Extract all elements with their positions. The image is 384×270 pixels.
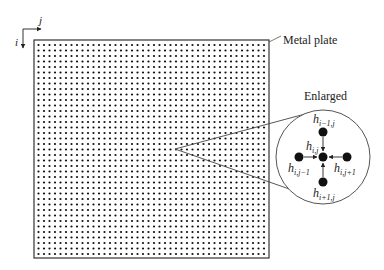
grid-dot — [164, 165, 166, 167]
grid-dot — [54, 132, 56, 134]
grid-dot — [136, 121, 138, 123]
grid-dot — [202, 231, 204, 233]
grid-dot — [142, 77, 144, 79]
grid-dot — [208, 60, 210, 62]
grid-dot — [125, 137, 127, 139]
grid-dot — [76, 247, 78, 249]
grid-dot — [246, 82, 248, 84]
grid-dot — [131, 231, 133, 233]
grid-dot — [103, 203, 105, 205]
grid-dot — [246, 88, 248, 90]
grid-dot — [48, 88, 50, 90]
grid-dot — [131, 121, 133, 123]
grid-dot — [92, 181, 94, 183]
grid-dot — [246, 143, 248, 145]
grid-dot — [70, 154, 72, 156]
grid-dot — [241, 132, 243, 134]
grid-dot — [158, 77, 160, 79]
grid-dot — [87, 115, 89, 117]
grid-dot — [114, 176, 116, 178]
grid-dot — [87, 121, 89, 123]
grid-dot — [263, 247, 265, 249]
grid-dot — [59, 187, 61, 189]
grid-dot — [246, 137, 248, 139]
grid-dot — [257, 71, 259, 73]
grid-dot — [98, 214, 100, 216]
grid-dot — [70, 93, 72, 95]
grid-dot — [81, 82, 83, 84]
grid-dot — [191, 253, 193, 255]
grid-dot — [120, 143, 122, 145]
grid-dot — [246, 132, 248, 134]
grid-dot — [76, 143, 78, 145]
grid-dot — [263, 137, 265, 139]
grid-dot — [235, 247, 237, 249]
grid-dot — [191, 49, 193, 51]
grid-dot — [114, 55, 116, 57]
grid-dot — [175, 225, 177, 227]
grid-dot — [241, 148, 243, 150]
grid-dot — [202, 132, 204, 134]
grid-dot — [65, 60, 67, 62]
grid-dot — [59, 181, 61, 183]
grid-dot — [263, 82, 265, 84]
grid-dot — [197, 66, 199, 68]
grid-dot — [142, 55, 144, 57]
grid-dot — [169, 214, 171, 216]
grid-dot — [153, 71, 155, 73]
grid-dot — [252, 148, 254, 150]
grid-dot — [103, 253, 105, 255]
diagram-canvas: j i Metal plate Enlarged hi−1,j hi,j hi,… — [0, 0, 384, 270]
grid-dot — [43, 110, 45, 112]
grid-dot — [103, 225, 105, 227]
grid-dot — [125, 165, 127, 167]
grid-dot — [120, 209, 122, 211]
grid-dot — [109, 170, 111, 172]
grid-dot — [186, 49, 188, 51]
grid-dot — [230, 66, 232, 68]
grid-dot — [257, 225, 259, 227]
grid-dot — [81, 104, 83, 106]
grid-dot — [263, 225, 265, 227]
grid-dot — [241, 187, 243, 189]
grid-dot — [103, 220, 105, 222]
grid-dot — [103, 71, 105, 73]
grid-dot — [191, 82, 193, 84]
grid-dot — [92, 71, 94, 73]
grid-dot — [153, 236, 155, 238]
grid-dot — [153, 126, 155, 128]
grid-dot — [158, 225, 160, 227]
grid-dot — [191, 60, 193, 62]
grid-dot — [191, 126, 193, 128]
grid-dot — [131, 247, 133, 249]
grid-dot — [136, 192, 138, 194]
grid-dot — [197, 225, 199, 227]
grid-dot — [109, 253, 111, 255]
grid-dot — [98, 192, 100, 194]
grid-dot — [109, 187, 111, 189]
grid-dot — [43, 231, 45, 233]
grid-dot — [197, 115, 199, 117]
grid-dot — [219, 231, 221, 233]
grid-dot — [202, 110, 204, 112]
grid-dot — [246, 60, 248, 62]
grid-dot — [114, 71, 116, 73]
grid-dot — [87, 181, 89, 183]
grid-dot — [197, 121, 199, 123]
grid-dot — [147, 115, 149, 117]
grid-dot — [43, 55, 45, 57]
grid-dot — [208, 99, 210, 101]
grid-dot — [213, 44, 215, 46]
grid-dot — [208, 55, 210, 57]
grid-dot — [202, 115, 204, 117]
grid-dot — [70, 159, 72, 161]
grid-dot — [219, 209, 221, 211]
grid-dot — [142, 104, 144, 106]
grid-dot — [70, 66, 72, 68]
grid-dot — [76, 209, 78, 211]
grid-dot — [219, 154, 221, 156]
grid-dot — [65, 203, 67, 205]
grid-dot — [136, 82, 138, 84]
grid-dot — [109, 137, 111, 139]
grid-dot — [147, 187, 149, 189]
